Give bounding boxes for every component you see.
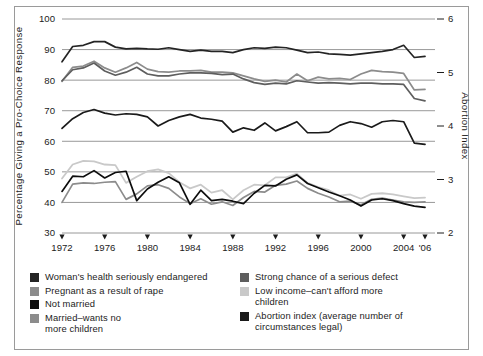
x-tick-label: '06 bbox=[419, 242, 432, 253]
x-tick-marker bbox=[230, 235, 235, 240]
legend-item-label: Not married bbox=[45, 298, 95, 310]
legend-item-label: Abortion index (average number of circum… bbox=[255, 310, 403, 333]
figure-container: 10090807060504030 65432 1972197619801984… bbox=[0, 0, 483, 356]
left-tick-label: 40 bbox=[44, 197, 55, 208]
series-line-4 bbox=[62, 161, 425, 200]
left-tick-label: 90 bbox=[44, 44, 55, 55]
left-tick-label: 80 bbox=[44, 75, 55, 86]
data-series-group bbox=[62, 42, 425, 208]
right-tick-label: 3 bbox=[448, 174, 453, 185]
right-tick-label: 4 bbox=[448, 120, 454, 131]
x-tick-marker bbox=[188, 235, 193, 240]
right-axis-title: Abortion Index bbox=[460, 92, 471, 159]
right-tick-label: 6 bbox=[448, 13, 453, 24]
left-tick-label: 70 bbox=[44, 105, 55, 116]
x-tick-label: 1988 bbox=[222, 242, 243, 253]
x-tick-marker bbox=[273, 235, 278, 240]
series-line-2 bbox=[62, 63, 425, 101]
legend-item[interactable]: Woman's health seriously endangered bbox=[30, 271, 240, 283]
x-tick-label: 1984 bbox=[179, 242, 201, 253]
x-tick-marker bbox=[422, 235, 427, 240]
x-tick-label: 1992 bbox=[265, 242, 286, 253]
legend-item-label: Strong chance of a serious defect bbox=[255, 271, 398, 283]
x-tick-marker bbox=[316, 235, 321, 240]
left-tick-label: 60 bbox=[44, 136, 55, 147]
gridlines bbox=[62, 19, 435, 202]
left-tick-label: 50 bbox=[44, 166, 55, 177]
x-tick-marker bbox=[59, 235, 64, 240]
series-line-3 bbox=[62, 109, 425, 144]
legend-item[interactable]: Abortion index (average number of circum… bbox=[240, 310, 460, 333]
chart-legend: Woman's health seriously endangeredPregn… bbox=[30, 271, 460, 345]
left-tick-label: 100 bbox=[39, 13, 55, 24]
series-line-6 bbox=[62, 171, 425, 208]
legend-swatch-icon bbox=[30, 287, 39, 296]
series-line-5 bbox=[62, 181, 425, 205]
x-tick-marker bbox=[145, 235, 150, 240]
right-tick-label: 2 bbox=[448, 227, 453, 238]
right-tick-label: 5 bbox=[448, 67, 453, 78]
legend-swatch-icon bbox=[240, 312, 249, 321]
legend-item[interactable]: Pregnant as a result of rape bbox=[30, 285, 240, 297]
legend-swatch-icon bbox=[30, 314, 39, 323]
legend-item-label: Woman's health seriously endangered bbox=[45, 271, 208, 283]
legend-swatch-icon bbox=[30, 273, 39, 282]
legend-item[interactable]: Low income–can't afford more children bbox=[240, 285, 460, 308]
right-axis-ticks: 65432 bbox=[437, 13, 454, 238]
x-axis: 197219761980198419881992199620002004'06 bbox=[51, 233, 435, 253]
left-axis-ticks: 10090807060504030 bbox=[39, 13, 55, 238]
legend-item[interactable]: Not married bbox=[30, 298, 240, 310]
x-tick-marker bbox=[401, 235, 406, 240]
legend-item-label: Low income–can't afford more children bbox=[255, 285, 383, 308]
legend-swatch-icon bbox=[240, 273, 249, 282]
legend-column-right: Strong chance of a serious defectLow inc… bbox=[240, 271, 460, 345]
legend-item-label: Pregnant as a result of rape bbox=[45, 285, 164, 297]
x-tick-label: 2000 bbox=[350, 242, 371, 253]
x-tick-marker bbox=[102, 235, 107, 240]
x-tick-label: 1996 bbox=[308, 242, 329, 253]
legend-item[interactable]: Strong chance of a serious defect bbox=[240, 271, 460, 283]
legend-swatch-icon bbox=[30, 300, 39, 309]
x-tick-label: 1980 bbox=[137, 242, 158, 253]
x-tick-label: 1972 bbox=[51, 242, 72, 253]
x-tick-label: 1976 bbox=[94, 242, 115, 253]
left-tick-label: 30 bbox=[44, 227, 55, 238]
left-axis-title: Percentage Giving a Pro-Choice Response bbox=[13, 26, 24, 225]
x-tick-label: 2004 bbox=[393, 242, 415, 253]
series-line-0 bbox=[62, 42, 425, 62]
x-tick-marker bbox=[358, 235, 363, 240]
legend-item[interactable]: Married–wants no more children bbox=[30, 312, 240, 335]
legend-swatch-icon bbox=[240, 287, 249, 296]
legend-item-label: Married–wants no more children bbox=[45, 312, 121, 335]
legend-column-left: Woman's health seriously endangeredPregn… bbox=[30, 271, 240, 345]
